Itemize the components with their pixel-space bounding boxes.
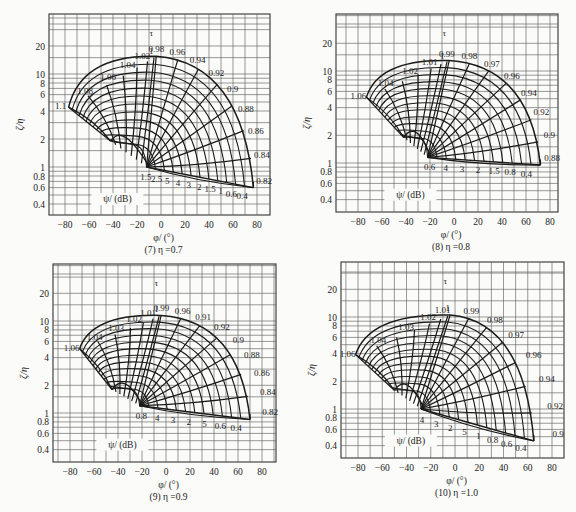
- x-tick-label: 40: [204, 220, 214, 230]
- tau-label: 0.96: [504, 71, 520, 81]
- x-tick-label: −80: [351, 217, 366, 227]
- psi-label: 2: [197, 182, 202, 192]
- x-tick-label: 60: [523, 463, 533, 473]
- psi-label: 0.6: [215, 421, 227, 431]
- tau-label: 0.92: [547, 401, 563, 411]
- x-tick-label: 80: [257, 467, 267, 477]
- tau-label: 0.98: [148, 44, 164, 54]
- x-tick-label: 80: [547, 463, 557, 473]
- psi-label: 0.4: [521, 169, 533, 179]
- chart-panel-10: 0.40.60.8124681020−80−60−40−20020406080ζ…: [306, 262, 564, 499]
- tau-label: 0.96: [175, 306, 191, 316]
- y-tick-label: 4: [332, 349, 337, 359]
- tau-label: 0.88: [244, 350, 260, 360]
- tau-label: 0.82: [262, 407, 278, 417]
- tau-label: 0.98: [487, 315, 503, 325]
- tau-label: 0.92: [214, 322, 230, 332]
- x-axis-label: φ/ (°): [153, 233, 174, 244]
- x-tick-label: −60: [375, 217, 390, 227]
- tau-label: 0.99: [154, 303, 170, 313]
- x-tick-label: −60: [375, 463, 390, 473]
- tau-label: 1.04: [370, 335, 386, 345]
- tau-label: 1.04: [87, 332, 103, 342]
- psi-label: 2: [187, 417, 192, 427]
- y-tick-label: 6: [40, 90, 45, 100]
- tau-label: 1.08: [77, 86, 93, 96]
- psi-label: 0.8: [136, 411, 148, 421]
- tau-label: 0.82: [256, 176, 272, 186]
- y-tick-label: 8: [327, 75, 332, 85]
- x-tick-label: −60: [82, 220, 97, 230]
- psi-label: 5: [462, 427, 467, 437]
- y-tick-label: 10: [328, 313, 338, 323]
- tau-label: 0.92: [208, 68, 224, 78]
- psi-label: 5: [165, 176, 170, 186]
- psi-label: 0.4: [515, 443, 527, 453]
- tau-label: 0.91: [195, 312, 211, 322]
- y-tick-label: 0.4: [325, 441, 337, 451]
- x-tick-label: 0: [164, 467, 169, 477]
- x-tick-label: 40: [209, 467, 219, 477]
- chart-caption: (7) η =0.7: [144, 245, 182, 256]
- y-axis-label: ζ/η: [301, 117, 313, 129]
- tau-label: 0.9: [544, 130, 556, 140]
- x-tick-label: −60: [87, 467, 102, 477]
- y-tick-label: 8: [40, 79, 45, 89]
- y-tick-label: 0.4: [33, 200, 45, 210]
- y-tick-label: 0.8: [37, 417, 49, 427]
- y-tick-label: 6: [44, 337, 49, 347]
- x-tick-label: 20: [473, 217, 483, 227]
- y-tick-label: 20: [36, 42, 46, 52]
- tau-symbol: τ: [150, 28, 154, 38]
- y-tick-label: 20: [40, 289, 50, 299]
- chart-caption: (9) η =0.9: [149, 492, 187, 503]
- psi-label: 0.6: [424, 162, 436, 172]
- x-tick-label: −40: [106, 220, 121, 230]
- y-tick-label: 8: [332, 321, 337, 331]
- y-tick-label: 6: [332, 333, 337, 343]
- psi-axis-label: ψ/ (dB): [396, 190, 424, 201]
- psi-label: 0.6: [501, 439, 513, 449]
- y-axis-label: ζ/η: [18, 367, 30, 379]
- x-axis-label: φ/ (°): [446, 476, 467, 487]
- x-tick-label: 80: [252, 220, 262, 230]
- x-tick-label: 40: [497, 217, 507, 227]
- y-tick-label: 0.8: [325, 413, 337, 423]
- x-tick-label: −20: [130, 220, 145, 230]
- x-tick-label: 20: [185, 467, 195, 477]
- psi-label: 0.8: [505, 167, 517, 177]
- tau-label: 0.99: [464, 306, 480, 316]
- y-tick-label: 4: [40, 107, 45, 117]
- y-tick-label: 10: [323, 67, 333, 77]
- y-tick-label: 0.4: [37, 445, 49, 455]
- x-tick-label: −80: [58, 220, 73, 230]
- chart-panel-9: 0.40.60.8124681020−80−60−40−20020406080ζ…: [18, 264, 278, 503]
- x-tick-label: −20: [423, 463, 438, 473]
- x-tick-label: 60: [233, 467, 243, 477]
- plot-frame: [53, 264, 276, 462]
- x-tick-label: −40: [111, 467, 126, 477]
- tau-label: 1.03: [108, 323, 124, 333]
- x-tick-label: 20: [180, 220, 190, 230]
- x-tick-label: 0: [452, 217, 457, 227]
- tau-label: 1: [445, 303, 450, 313]
- psi-axis-label: ψ/ (dB): [397, 436, 425, 447]
- y-tick-label: 4: [327, 103, 332, 113]
- tau-label: 1.04: [120, 60, 136, 70]
- psi-label: 1: [476, 431, 481, 441]
- x-tick-label: 0: [159, 220, 164, 230]
- psi-label: 2.5: [151, 174, 163, 184]
- y-tick-label: 10: [36, 70, 46, 80]
- psi-label: 0.4: [230, 423, 242, 433]
- psi-axis-label: ψ/ (dB): [108, 440, 136, 451]
- x-tick-label: −40: [399, 217, 414, 227]
- y-tick-label: 1: [327, 159, 332, 169]
- y-tick-label: 0.6: [37, 429, 49, 439]
- y-tick-label: 20: [323, 39, 333, 49]
- x-tick-label: 60: [521, 217, 531, 227]
- y-tick-label: 0.8: [33, 172, 45, 182]
- tau-label: 1.1: [55, 101, 66, 111]
- tau-symbol: τ: [443, 276, 447, 286]
- tau-label: 1.06: [100, 72, 116, 82]
- x-tick-label: −80: [351, 463, 366, 473]
